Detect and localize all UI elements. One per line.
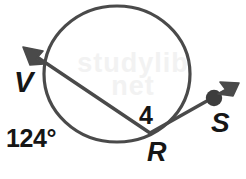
exterior-arrowhead [218,82,239,96]
label-segment-length: 4 [139,103,153,128]
geometry-figure: studylib net V R S 4 124° [0,0,246,179]
label-point-v: V [14,68,33,97]
figure-canvas [0,0,246,179]
secant-arrowhead [23,47,44,65]
secant-ray-line [31,53,150,133]
label-point-r: R [147,139,167,166]
label-point-s: S [211,109,230,137]
label-arc-measure: 124° [6,126,56,151]
